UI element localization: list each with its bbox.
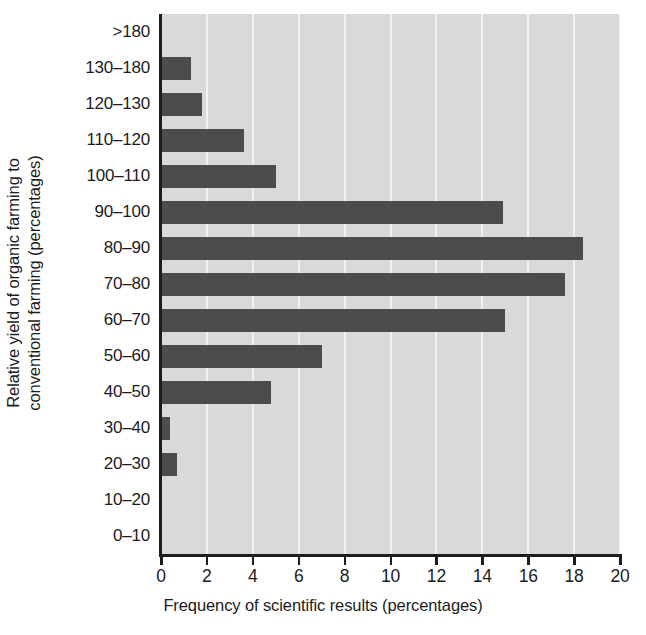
x-axis-tick-mark [252,556,255,565]
bar [161,165,276,188]
y-axis-tick-label: 130–180 [46,50,157,86]
y-axis-title: Relative yield of organic farming to con… [0,0,48,565]
x-axis-tick-mark [298,556,301,565]
x-axis-tick-label: 16 [519,566,538,587]
bar [161,57,191,80]
y-axis-title-line-2: conventional farming (percentages) [24,155,45,410]
x-axis-tick-mark [573,556,576,565]
bar-row [161,482,620,518]
bar-row [161,194,620,230]
x-axis-tick-label: 8 [340,566,350,587]
x-axis-tick-label: 10 [381,566,400,587]
bar-series [161,14,620,554]
bar [161,237,583,260]
x-axis-tick-mark [527,556,530,565]
y-axis-tick-label: 70–80 [46,266,157,302]
x-axis-title: Frequency of scientific results (percent… [0,596,646,615]
x-axis-tick-label: 0 [156,566,166,587]
x-axis-tick-label: 6 [294,566,304,587]
x-axis-tick-mark [390,556,393,565]
bar [161,273,565,296]
bar-row [161,374,620,410]
y-axis-tick-label: 50–60 [46,338,157,374]
bar-row [161,338,620,374]
bar-row [161,50,620,86]
y-axis-tick-label: 10–20 [46,482,157,518]
y-axis-title-line-1: Relative yield of organic farming to [4,158,22,408]
y-axis-tick-label: 30–40 [46,410,157,446]
y-axis-tick-label: >180 [46,14,157,50]
plot-area [161,14,620,554]
bar-row [161,446,620,482]
x-axis-tick-label: 2 [202,566,212,587]
y-axis-tick-label: 110–120 [46,122,157,158]
bar-row [161,86,620,122]
bar [161,309,505,332]
x-axis-tick-mark [344,556,347,565]
y-axis-tick-label: 80–90 [46,230,157,266]
y-axis-tick-label: 120–130 [46,86,157,122]
bar [161,453,177,476]
bar-row [161,410,620,446]
bar-row [161,266,620,302]
y-axis-tick-label: 20–30 [46,446,157,482]
bar-row [161,302,620,338]
x-axis-tick-label: 18 [565,566,584,587]
bar [161,345,322,368]
x-axis-tick-mark [206,556,209,565]
bar-row [161,230,620,266]
x-axis-tick-label: 14 [473,566,492,587]
bar [161,129,244,152]
x-axis-tick-mark [619,556,622,565]
y-axis-tick-label: 60–70 [46,302,157,338]
bar [161,93,202,116]
y-axis-tick-labels: >180130–180120–130110–120100–11090–10080… [46,14,157,554]
bar-row [161,158,620,194]
bar [161,417,170,440]
x-axis-tick-labels: 02468101214161820 [161,566,620,590]
bar [161,201,503,224]
bar-row [161,122,620,158]
bar [161,381,271,404]
y-axis-tick-label: 40–50 [46,374,157,410]
x-axis-tick-marks [161,556,620,565]
x-axis-tick-label: 4 [248,566,258,587]
bar-row [161,14,620,50]
y-axis-line [159,14,162,554]
x-axis-tick-mark [481,556,484,565]
x-axis-tick-mark [160,556,163,565]
bar-row [161,518,620,554]
x-axis-tick-mark [435,556,438,565]
x-axis-tick-label: 20 [610,566,629,587]
y-axis-tick-label: 100–110 [46,158,157,194]
bar-chart-figure: Relative yield of organic farming to con… [0,0,646,635]
y-axis-tick-label: 0–10 [46,518,157,554]
y-axis-tick-label: 90–100 [46,194,157,230]
x-axis-tick-label: 12 [427,566,446,587]
